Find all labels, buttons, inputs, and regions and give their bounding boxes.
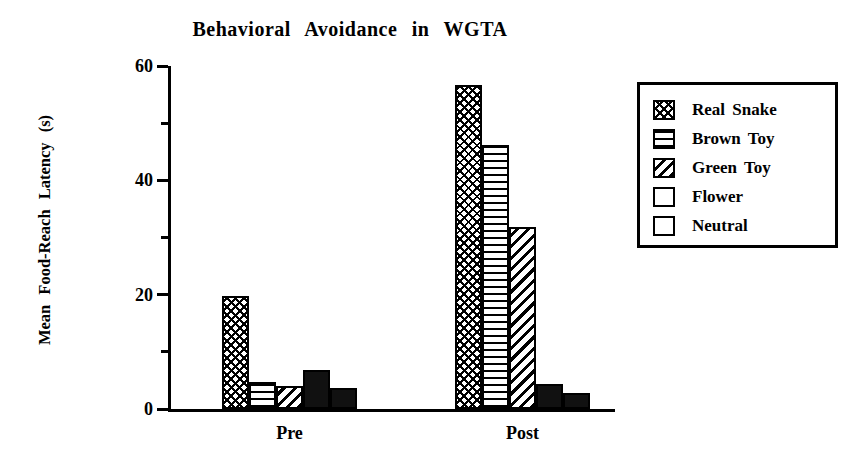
y-axis-line bbox=[168, 66, 171, 409]
legend-swatch-icon bbox=[653, 187, 675, 207]
chart-figure: Behavioral Avoidance in WGTA Mean Food-R… bbox=[0, 0, 861, 467]
x-group-label-pre: Pre bbox=[220, 423, 360, 444]
y-tick-major bbox=[157, 179, 168, 182]
bar-post-neutral bbox=[563, 393, 590, 409]
x-group-label-post: Post bbox=[453, 423, 593, 444]
y-tick-label: 40 bbox=[93, 171, 153, 189]
bar-post-real-snake bbox=[455, 85, 482, 409]
legend-item: Real Snake bbox=[653, 97, 777, 123]
legend-item-label: Flower bbox=[692, 187, 743, 207]
legend-box: Real SnakeBrown ToyGreen ToyFlowerNeutra… bbox=[637, 82, 838, 248]
legend-item: Neutral bbox=[653, 213, 748, 239]
y-tick-major bbox=[157, 408, 168, 411]
bar-pre-flower bbox=[303, 370, 330, 409]
bar-post-green-toy bbox=[509, 227, 536, 409]
legend-item-label: Brown Toy bbox=[692, 129, 775, 149]
chart-title: Behavioral Avoidance in WGTA bbox=[0, 18, 700, 41]
legend-item: Flower bbox=[653, 184, 743, 210]
x-axis-line bbox=[168, 409, 615, 412]
legend-swatch-icon bbox=[653, 216, 675, 236]
legend-swatch-icon bbox=[653, 100, 675, 120]
bar-pre-brown-toy bbox=[249, 382, 276, 409]
legend-item: Green Toy bbox=[653, 155, 771, 181]
plot-area: 0204060 PrePost bbox=[168, 66, 615, 409]
legend-swatch-icon bbox=[653, 129, 675, 149]
bar-pre-green-toy bbox=[276, 386, 303, 409]
y-tick-major bbox=[157, 65, 168, 68]
y-tick-minor bbox=[161, 236, 168, 239]
legend-item-label: Neutral bbox=[692, 216, 748, 236]
legend-swatch-icon bbox=[653, 158, 675, 178]
bar-post-brown-toy bbox=[482, 145, 509, 409]
legend-item: Brown Toy bbox=[653, 126, 775, 152]
bar-post-flower bbox=[536, 384, 563, 409]
y-tick-minor bbox=[161, 350, 168, 353]
legend-item-label: Real Snake bbox=[692, 100, 777, 120]
y-tick-major bbox=[157, 293, 168, 296]
y-tick-label: 20 bbox=[93, 286, 153, 304]
bar-pre-neutral bbox=[330, 388, 357, 409]
legend-item-label: Green Toy bbox=[692, 158, 771, 178]
y-axis-label-container: Mean Food-Reach Latency (s) bbox=[35, 30, 65, 430]
y-tick-label: 60 bbox=[93, 57, 153, 75]
bar-pre-real-snake bbox=[222, 296, 249, 409]
y-axis-label: Mean Food-Reach Latency (s) bbox=[35, 30, 55, 430]
y-tick-minor bbox=[161, 122, 168, 125]
y-tick-label: 0 bbox=[93, 400, 153, 418]
